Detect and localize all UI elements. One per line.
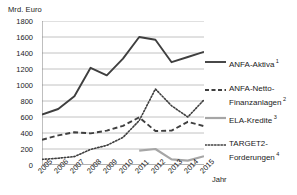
legend-footnote-marker: 3 [272,114,277,120]
y-tick-label: 1000 [16,81,33,90]
legend-line-swatch [205,86,226,94]
y-tick-label: 0 [29,161,33,170]
x-axis-tick-labels: 2005200620072008200920102011201220132014… [42,167,204,195]
series-plot [42,21,204,165]
y-tick-label: 1400 [16,49,33,58]
legend-line-swatch [205,141,226,149]
legend-line-swatch [205,114,226,122]
legend: ANFA-Aktiva 1ANFA-Netto-Finanzanlagen 2E… [205,56,297,169]
legend-entry[interactable]: ANFA-Aktiva 1 [205,56,297,70]
legend-footnote-marker: 4 [275,151,280,157]
y-tick-label: 1800 [16,17,33,26]
legend-label: ELA-Kredite 3 [229,112,277,126]
legend-label-line2: Finanzanlagen 2 [229,94,297,108]
y-tick-label: 1200 [16,65,33,74]
legend-label-line2: Forderungen 4 [229,149,297,163]
y-axis-tick-labels: 180016001400120010008006004002000 [0,21,38,165]
legend-footnote-marker: 2 [281,96,286,102]
series-line [42,117,204,139]
x-axis-title: Jahr [212,175,227,184]
chart-container: Mrd. Euro 180016001400120010008006004002… [0,0,297,195]
legend-label: ANFA-Netto- [229,84,274,94]
legend-entry[interactable]: ELA-Kredite 3 [205,112,297,126]
legend-line-swatch [205,58,226,66]
series-line [42,37,204,115]
legend-footnote-marker: 1 [274,58,279,64]
y-tick-label: 600 [20,113,33,122]
y-tick-label: 1600 [16,33,33,42]
legend-label: ANFA-Aktiva 1 [229,56,279,70]
x-tick-label: 2005 [36,157,54,175]
y-tick-label: 200 [20,145,33,154]
legend-label: TARGET2- [229,139,268,149]
plot-area [42,21,204,165]
legend-entry[interactable]: TARGET2-Forderungen 4 [205,139,297,163]
y-axis-unit-label: Mrd. Euro [8,5,42,14]
legend-entry[interactable]: ANFA-Netto-Finanzanlagen 2 [205,84,297,108]
y-tick-label: 800 [20,97,33,106]
y-tick-label: 400 [20,129,33,138]
